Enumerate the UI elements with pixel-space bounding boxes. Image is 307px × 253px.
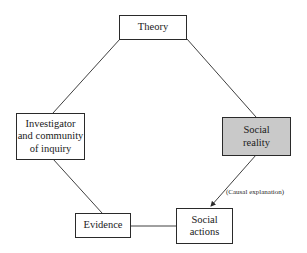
node-theory-label: Theory: [138, 21, 168, 34]
node-evidence-label: Evidence: [83, 219, 122, 232]
node-social-actions-line-2: actions: [190, 226, 220, 239]
node-investigator-line-1: Investigator: [25, 118, 75, 131]
node-social-reality-line-1: Social: [243, 124, 269, 137]
edge-causal-explanation-arrow: [211, 155, 256, 206]
node-evidence: Evidence: [75, 213, 131, 238]
causal-explanation-label: (Causal explanation): [226, 188, 284, 196]
node-social-actions-line-1: Social: [191, 214, 217, 227]
node-theory: Theory: [119, 15, 187, 40]
edge-investigator-evidence: [53, 159, 102, 213]
edge-theory-investigator: [53, 39, 120, 113]
edge-theory-social-reality: [187, 39, 256, 117]
node-social-actions: Social actions: [176, 208, 233, 244]
node-social-reality-line-2: reality: [243, 137, 270, 150]
node-investigator: Investigator and community of inquiry: [16, 113, 85, 160]
node-investigator-line-3: of inquiry: [30, 143, 72, 156]
node-investigator-line-2: and community: [18, 130, 84, 143]
node-social-reality: Social reality: [222, 117, 291, 156]
